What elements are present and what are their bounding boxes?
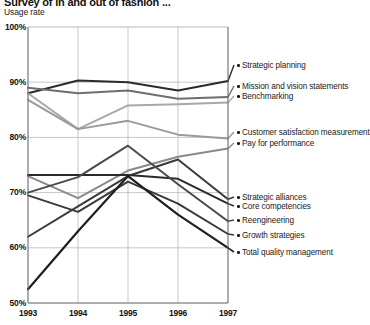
legend-bullet-icon	[237, 219, 240, 222]
legend-bullet-icon	[237, 234, 240, 237]
x-axis-tick-label: 1994	[61, 308, 95, 318]
legend-bullet-icon	[237, 205, 240, 208]
x-axis-tick-label: 1995	[111, 308, 145, 318]
legend-bullet-icon	[237, 95, 240, 98]
legend-item-label: Customer satisfaction measurement	[242, 128, 370, 137]
legend-leader-line	[228, 220, 234, 221]
legend-leader-line	[228, 143, 234, 148]
legend-leader-line	[228, 204, 234, 206]
legend-item[interactable]: Core competencies	[237, 202, 311, 211]
legend-item-label: Core competencies	[242, 202, 311, 211]
y-axis-tick-label: 80%	[0, 133, 26, 142]
legend-item[interactable]: Total quality management	[237, 248, 333, 257]
legend-item-label: Growth strategies	[242, 231, 304, 240]
legend-item[interactable]: Pay for performance	[237, 139, 314, 148]
legend-bullet-icon	[237, 64, 240, 67]
x-axis-tick-label: 1996	[161, 308, 195, 318]
legend-item-label: Benchmarking	[242, 92, 293, 101]
y-axis-tick: 100%	[0, 23, 26, 32]
legend-item[interactable]: Benchmarking	[237, 92, 293, 101]
y-axis-tick-label: 90%	[0, 78, 26, 87]
legend-bullet-icon	[237, 142, 240, 145]
legend-bullet-icon	[237, 131, 240, 134]
legend-leader-line	[228, 234, 234, 235]
legend-item-label: Total quality management	[242, 248, 333, 257]
y-axis-caption: Usage rate	[4, 7, 45, 17]
legend-item-label: Pay for performance	[242, 139, 314, 148]
legend-bullet-icon	[237, 196, 240, 199]
legend-leader-line	[228, 248, 234, 252]
y-axis-tick: 70%	[0, 188, 26, 197]
legend-item[interactable]: Strategic planning	[237, 61, 306, 70]
legend-leader-line	[228, 197, 234, 199]
y-axis-tick-label: 100%	[0, 23, 26, 32]
legend-item[interactable]: Mission and vision statements	[237, 82, 348, 91]
legend-item[interactable]: Strategic alliances	[237, 193, 307, 202]
legend-leader-line	[228, 132, 234, 139]
legend-leader-line	[228, 86, 234, 97]
legend-bullet-icon	[237, 85, 240, 88]
y-axis-tick: 90%	[0, 78, 26, 87]
y-axis-tick-label: 60%	[0, 243, 26, 252]
legend-item-label: Reengineering	[242, 216, 294, 225]
y-axis-tick: 50%	[0, 299, 26, 308]
y-axis-tick: 80%	[0, 133, 26, 142]
legend-leader-line	[228, 65, 234, 81]
x-axis-tick-label: 1993	[11, 308, 45, 318]
legend-item[interactable]: Reengineering	[237, 216, 294, 225]
legend-bullet-icon	[237, 251, 240, 254]
legend-item-label: Strategic planning	[242, 61, 306, 70]
y-axis-tick: 60%	[0, 243, 26, 252]
legend-item-label: Mission and vision statements	[242, 82, 348, 91]
legend-item-label: Strategic alliances	[242, 193, 307, 202]
legend-item[interactable]: Customer satisfaction measurement	[237, 128, 370, 137]
x-axis-tick-label: 1997	[211, 308, 245, 318]
y-axis-tick-label: 50%	[0, 299, 26, 308]
legend-item[interactable]: Growth strategies	[237, 231, 304, 240]
y-axis-tick-label: 70%	[0, 188, 26, 197]
